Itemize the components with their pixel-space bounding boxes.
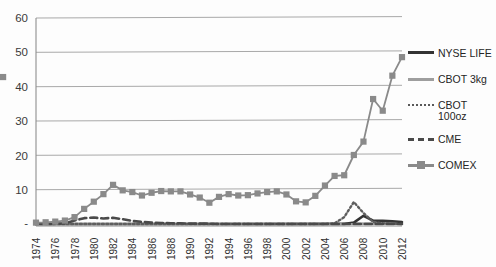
legend-label-cbot-3kg: CBOT 3kg bbox=[438, 72, 487, 85]
x-tick-label: 1980 bbox=[90, 238, 100, 260]
data-point-marker bbox=[322, 182, 328, 188]
data-point-marker bbox=[81, 206, 87, 212]
data-point-marker bbox=[216, 194, 222, 200]
data-point-marker bbox=[331, 173, 337, 179]
x-tick-label: 1984 bbox=[128, 238, 138, 260]
data-point-marker bbox=[62, 217, 68, 223]
data-point-marker bbox=[91, 199, 97, 205]
chart-legend: NYSE LIFE CBOT 3kg CBOT 100oz CME C bbox=[408, 46, 496, 184]
data-point-marker bbox=[226, 191, 232, 197]
x-tick-label: 1990 bbox=[186, 238, 196, 260]
data-point-marker bbox=[341, 172, 347, 178]
legend-label-nyse-life: NYSE LIFE bbox=[438, 46, 492, 59]
data-point-marker bbox=[293, 198, 299, 204]
data-point-marker bbox=[274, 188, 280, 194]
data-point-marker bbox=[360, 139, 366, 145]
gridline bbox=[36, 188, 402, 189]
legend-item-cbot-3kg: CBOT 3kg bbox=[408, 72, 496, 98]
data-point-marker bbox=[177, 188, 183, 194]
gridline bbox=[36, 120, 402, 121]
square-marker-icon bbox=[417, 161, 425, 169]
gridline bbox=[36, 17, 402, 18]
legend-swatch-cbot-3kg bbox=[408, 72, 434, 86]
x-tick-label: 2012 bbox=[398, 238, 408, 260]
series-line-cbot-100oz bbox=[36, 202, 402, 224]
data-point-marker bbox=[303, 199, 309, 205]
data-point-marker bbox=[168, 188, 174, 194]
legend-swatch-cbot-100oz bbox=[408, 98, 434, 112]
data-point-marker bbox=[110, 182, 116, 188]
data-point-marker bbox=[139, 192, 145, 198]
data-point-marker bbox=[254, 190, 260, 196]
legend-item-cme: CME bbox=[408, 132, 496, 158]
data-point-marker bbox=[197, 194, 203, 200]
x-tick-label: 2008 bbox=[359, 238, 369, 260]
legend-label-comex: COMEX bbox=[438, 158, 477, 171]
data-point-marker bbox=[370, 96, 376, 102]
x-tick-label: 1996 bbox=[244, 238, 254, 260]
x-tick-label: 2006 bbox=[340, 238, 350, 260]
x-tick-label: 2010 bbox=[379, 238, 389, 260]
data-point-marker bbox=[399, 54, 405, 60]
data-point-marker bbox=[389, 73, 395, 79]
gridline bbox=[36, 51, 402, 52]
x-tick-label: 1988 bbox=[167, 238, 177, 260]
gridline bbox=[36, 85, 402, 86]
legend-swatch-nyse-life bbox=[408, 46, 434, 60]
data-point-marker bbox=[235, 192, 241, 198]
x-tick-label: 1992 bbox=[205, 238, 215, 260]
data-point-marker bbox=[148, 190, 154, 196]
data-point-marker bbox=[245, 192, 251, 198]
gridline bbox=[36, 154, 402, 155]
x-tick-label: 1982 bbox=[109, 238, 119, 260]
data-point-marker bbox=[100, 191, 106, 197]
legend-label-cme: CME bbox=[438, 132, 461, 145]
data-point-marker bbox=[158, 188, 164, 194]
data-point-marker bbox=[187, 191, 193, 197]
x-tick-label: 1976 bbox=[51, 238, 61, 260]
x-tick-label: 1994 bbox=[225, 238, 235, 260]
data-point-marker bbox=[380, 108, 386, 114]
data-point-marker bbox=[206, 200, 212, 206]
x-tick-label: 1974 bbox=[32, 238, 42, 260]
legend-swatch-cme bbox=[408, 132, 434, 146]
x-tick-label: 1986 bbox=[148, 238, 158, 260]
data-point-marker bbox=[129, 189, 135, 195]
legend-item-cbot-100oz: CBOT 100oz bbox=[408, 98, 496, 132]
data-point-marker bbox=[52, 219, 58, 225]
data-point-marker bbox=[264, 189, 270, 195]
data-point-marker bbox=[283, 191, 289, 197]
legend-label-cbot-100oz: CBOT 100oz bbox=[438, 98, 467, 122]
legend-item-comex: COMEX bbox=[408, 158, 496, 184]
legend-swatch-comex bbox=[408, 158, 434, 172]
data-point-marker bbox=[43, 219, 49, 225]
x-tick-label: 1978 bbox=[71, 238, 81, 260]
data-point-marker bbox=[351, 152, 357, 158]
x-tick-label: 2000 bbox=[282, 238, 292, 260]
legend-item-nyse-life: NYSE LIFE bbox=[408, 46, 496, 72]
data-point-marker bbox=[71, 214, 77, 220]
x-tick-label: 2004 bbox=[321, 238, 331, 260]
data-point-marker bbox=[120, 187, 126, 193]
x-tick-label: 1998 bbox=[263, 238, 273, 260]
data-point-marker bbox=[33, 220, 39, 226]
data-point-marker bbox=[0, 74, 6, 80]
chart-container: 60 50 40 30 20 10 - 19741976197819801982… bbox=[0, 0, 496, 267]
data-point-marker bbox=[312, 193, 318, 199]
x-tick-label: 2002 bbox=[302, 238, 312, 260]
